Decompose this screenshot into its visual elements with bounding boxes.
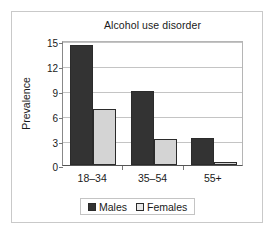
y-axis-tick-label: 9 bbox=[52, 88, 58, 99]
x-axis-tick-mark bbox=[122, 166, 123, 170]
chart-title: Alcohol use disorder bbox=[62, 19, 243, 31]
bar-females-0 bbox=[93, 109, 116, 165]
bar-males-1 bbox=[131, 91, 154, 165]
x-axis-tick-label: 55+ bbox=[173, 172, 253, 184]
y-axis-tick-label: 6 bbox=[52, 113, 58, 124]
bar-females-2 bbox=[214, 162, 237, 165]
legend-item-males: Males bbox=[88, 201, 127, 213]
y-axis-tick-label: 3 bbox=[52, 138, 58, 149]
legend-label: Males bbox=[99, 201, 127, 213]
bar-males-0 bbox=[70, 45, 93, 165]
y-axis-tick-label: 12 bbox=[47, 63, 58, 74]
y-axis-label: Prevalence bbox=[20, 41, 34, 166]
bar-series-container bbox=[63, 42, 242, 165]
x-axis-tick-mark bbox=[183, 166, 184, 170]
y-axis-tick-mark bbox=[59, 167, 63, 168]
legend-swatch-females-icon bbox=[136, 203, 144, 211]
legend-item-females: Females bbox=[136, 201, 187, 213]
bar-females-1 bbox=[154, 139, 177, 165]
legend-swatch-males-icon bbox=[88, 203, 96, 211]
legend-label: Females bbox=[147, 201, 187, 213]
bar-males-2 bbox=[191, 138, 214, 166]
chart-figure: Alcohol use disorder Prevalence 03691215… bbox=[0, 0, 277, 234]
y-axis-tick-label: 15 bbox=[47, 38, 58, 49]
plot-area: 03691215 bbox=[62, 41, 243, 166]
y-axis-tick-label: 0 bbox=[52, 162, 58, 173]
chart-legend: MalesFemales bbox=[80, 198, 195, 215]
